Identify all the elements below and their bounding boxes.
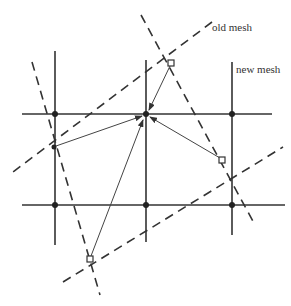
new-mesh-lines xyxy=(22,51,285,245)
old-mesh-lines xyxy=(13,15,283,295)
old-mesh-label: old mesh xyxy=(212,21,252,33)
new-mesh-label: new mesh xyxy=(236,63,280,75)
mesh-diagram xyxy=(0,0,291,306)
old-mesh-nodes xyxy=(87,60,225,262)
